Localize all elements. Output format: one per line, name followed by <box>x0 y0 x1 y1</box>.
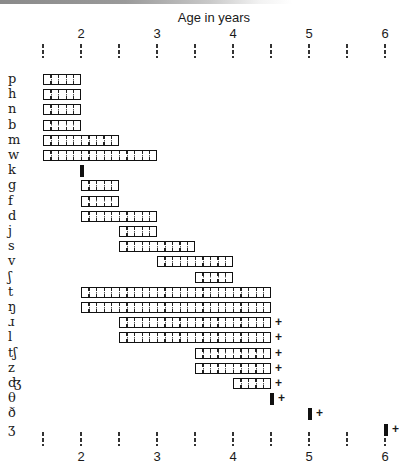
row-label: ŋ <box>8 300 28 314</box>
range-bar <box>81 196 119 207</box>
continuation-plus: + <box>275 362 282 374</box>
bottom-axis-tick <box>346 432 348 446</box>
range-bar <box>43 74 81 85</box>
bottom-axis-tick <box>270 432 272 446</box>
range-bar <box>195 272 233 283</box>
range-bar <box>81 287 271 298</box>
row-label: n <box>8 102 28 116</box>
range-bar <box>43 104 81 115</box>
row-label: ɹ <box>8 315 28 329</box>
row-label: j <box>8 224 28 238</box>
top-axis-label: 4 <box>229 26 236 41</box>
row-label: w <box>8 148 28 162</box>
bottom-axis-label: 2 <box>77 449 84 464</box>
range-bar <box>119 241 195 252</box>
point-marker <box>308 408 312 420</box>
range-bar <box>81 211 157 222</box>
range-bar <box>157 256 233 267</box>
top-scan-shadow <box>0 0 418 4</box>
row-label: θ <box>8 391 28 405</box>
bottom-axis-tick <box>232 432 234 446</box>
row-label: tʃ <box>8 346 28 360</box>
continuation-plus: + <box>275 331 282 343</box>
row-label: ʒ <box>8 422 28 436</box>
top-axis-tick <box>232 44 234 58</box>
range-bar <box>81 180 119 191</box>
row-label: k <box>8 163 28 177</box>
row-label: v <box>8 254 28 268</box>
bottom-axis-label: 6 <box>381 449 388 464</box>
row-label: d <box>8 209 28 223</box>
top-axis-label: 5 <box>305 26 312 41</box>
top-axis-tick <box>156 44 158 58</box>
range-bar <box>43 89 81 100</box>
row-label: ʃ <box>8 270 28 284</box>
row-label: p <box>8 72 28 86</box>
row-label: z <box>8 361 28 375</box>
continuation-plus: + <box>275 347 282 359</box>
row-label: m <box>8 133 28 147</box>
continuation-plus: + <box>275 377 282 389</box>
top-axis-tick <box>346 44 348 58</box>
top-axis-tick <box>194 44 196 58</box>
point-marker <box>270 393 274 405</box>
range-bar <box>43 120 81 131</box>
row-label: f <box>8 194 28 208</box>
top-axis-tick <box>308 44 310 58</box>
range-bar <box>195 363 271 374</box>
range-bar <box>81 302 271 313</box>
bottom-axis-label: 3 <box>153 449 160 464</box>
range-bar <box>43 150 157 161</box>
top-axis-label: 2 <box>77 26 84 41</box>
continuation-plus: + <box>275 316 282 328</box>
range-bar <box>119 226 157 237</box>
row-label: g <box>8 178 28 192</box>
top-axis-tick <box>118 44 120 58</box>
bottom-axis-tick <box>156 432 158 446</box>
row-label: l <box>8 330 28 344</box>
row-label: ʤ <box>8 376 28 390</box>
row-label: ð <box>8 406 28 420</box>
bottom-axis-tick <box>42 432 44 446</box>
range-bar <box>119 332 271 343</box>
chart-title: Age in years <box>0 10 418 25</box>
range-bar <box>119 317 271 328</box>
bottom-axis-tick <box>194 432 196 446</box>
range-bar <box>43 135 119 146</box>
continuation-plus: + <box>316 407 323 419</box>
bottom-axis-label: 5 <box>305 449 312 464</box>
top-axis-tick <box>42 44 44 58</box>
top-axis-tick <box>270 44 272 58</box>
bottom-axis-tick <box>308 432 310 446</box>
top-axis-tick <box>384 44 386 58</box>
bottom-axis-label: 4 <box>229 449 236 464</box>
row-label: t <box>8 285 28 299</box>
top-axis-tick <box>80 44 82 58</box>
point-marker <box>384 424 388 436</box>
row-label: s <box>8 239 28 253</box>
continuation-plus: + <box>278 392 285 404</box>
bottom-axis-tick <box>80 432 82 446</box>
point-marker <box>80 165 84 177</box>
continuation-plus: + <box>392 423 399 435</box>
top-axis-label: 3 <box>153 26 160 41</box>
row-label: b <box>8 118 28 132</box>
range-bar <box>195 348 271 359</box>
top-axis-label: 6 <box>381 26 388 41</box>
bottom-axis-tick <box>118 432 120 446</box>
row-label: h <box>8 87 28 101</box>
range-bar <box>233 378 271 389</box>
